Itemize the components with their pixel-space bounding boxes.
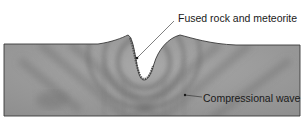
fused-rock-label: Fused rock and meteorite bbox=[178, 13, 297, 24]
compressional-wave-pointer-dot bbox=[184, 94, 186, 96]
compressional-wave-label: Compressional wave bbox=[203, 93, 300, 104]
fused-rock-pointer-dot bbox=[136, 57, 139, 60]
